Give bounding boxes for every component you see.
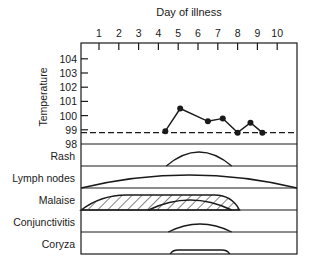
x-tick-label: 1 [96,27,102,39]
temperature-point [177,106,183,112]
symptom-row-conjunctivitis: Conjunctivitis [13,216,297,232]
symptom-label: Lymph nodes [12,172,75,184]
symptom-row-rash: Rash [50,150,297,166]
symptom-label: Rash [50,150,75,162]
symptom-duration-curve [166,152,231,166]
x-tick-label: 2 [116,27,122,39]
y-tick-label: 101 [59,95,77,107]
temperature-series-line [165,109,262,133]
x-tick-label: 3 [136,27,142,39]
y-tick-label: 99 [65,124,77,136]
symptom-label: Coryza [42,238,75,250]
x-tick-label: 7 [215,27,221,39]
symptom-rows: RashLymph nodesMalaiseConjunctivitisCory… [12,150,297,254]
symptom-row-malaise: Malaise [39,194,297,210]
plot-frame [81,43,297,254]
x-axis-title: Day of illness [156,6,222,18]
x-tick-label: 6 [195,27,201,39]
symptom-label: Conjunctivitis [13,216,75,228]
temperature-point [162,128,168,134]
x-tick-label: 8 [235,27,241,39]
symptom-row-coryza: Coryza [42,238,230,254]
temperature-point [205,118,211,124]
chart: Day of illness 12345678910 9899100101102… [0,0,310,263]
y-tick-label: 100 [59,110,77,122]
y-tick-label: 102 [59,81,77,93]
temperature-point [220,115,226,121]
y-tick-label: 104 [59,53,77,65]
temperature-point [247,120,253,126]
y-tick-label: 103 [59,67,77,79]
x-tick-label: 5 [175,27,181,39]
y-tick-label: 98 [65,138,77,150]
x-tick-group: 12345678910 [96,27,283,50]
symptom-label: Malaise [39,194,75,206]
y-axis-title: Temperature [37,67,49,126]
symptom-row-lymph-nodes: Lymph nodes [12,172,297,188]
malaise-hatched-area [81,195,239,210]
temperature-point [259,130,265,136]
symptom-duration-curve [81,175,297,188]
symptom-duration-curve [170,250,229,254]
x-tick-label: 4 [155,27,161,39]
x-tick-label: 9 [254,27,260,39]
temperature-point [235,130,241,136]
symptom-duration-curve [168,224,231,232]
x-tick-label: 10 [271,27,283,39]
